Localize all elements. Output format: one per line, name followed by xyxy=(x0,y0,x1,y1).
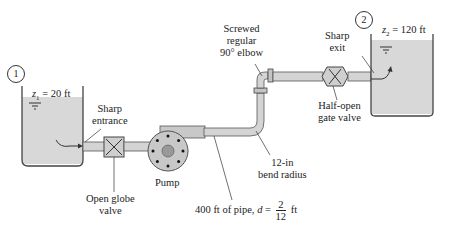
pipe-segment-exit xyxy=(348,72,371,81)
reservoir-1-water xyxy=(22,97,83,164)
label-line: Screwed xyxy=(220,23,263,35)
elevation-label-2: z2 = 120 ft xyxy=(382,24,426,40)
label-line: gate valve xyxy=(318,112,361,124)
label-line: 12-in xyxy=(258,157,307,169)
numerator: 2 xyxy=(276,199,287,211)
label-screwed-elbow: Screwed regular 90° elbow xyxy=(220,23,263,59)
label-line: entrance xyxy=(92,115,128,127)
piping-system-diagram: 1 2 z1 = 20 ft z2 = 120 ft Sharp entranc… xyxy=(0,0,453,231)
station-marker-1: 1 xyxy=(7,65,25,83)
elevation-value: = 20 ft xyxy=(40,88,71,99)
label-line: 90° elbow xyxy=(220,47,263,59)
label-open-globe-valve: Open globe valve xyxy=(86,193,135,217)
label-sharp-exit: Sharp exit xyxy=(325,30,350,54)
pipe-segment-entrance xyxy=(83,142,105,151)
pump xyxy=(148,126,205,171)
label-half-open-gate-valve: Half-open gate valve xyxy=(318,100,361,124)
open-globe-valve xyxy=(104,137,124,157)
label-line: regular xyxy=(220,35,263,47)
unit: ft xyxy=(288,204,297,215)
pipe-segment-upper xyxy=(273,72,323,81)
label-line: Half-open xyxy=(318,100,361,112)
label-sharp-entrance: Sharp entrance xyxy=(92,103,128,127)
equals: = xyxy=(262,204,273,215)
label-pipe-spec: 400 ft of pipe, d = 212 ft xyxy=(195,199,297,222)
label-line: exit xyxy=(325,42,350,54)
half-open-gate-valve xyxy=(322,67,348,86)
station-marker-2: 2 xyxy=(355,11,373,29)
elevation-value: = 120 ft xyxy=(390,24,426,35)
denominator: 12 xyxy=(276,211,287,222)
pipe-diameter-fraction: 212 xyxy=(276,199,287,222)
reservoir-2 xyxy=(371,34,433,116)
label-line: Sharp xyxy=(325,30,350,42)
elevation-label-1: z1 = 20 ft xyxy=(32,88,70,104)
label-line: bend radius xyxy=(258,169,307,181)
label-pump: Pump xyxy=(155,177,180,189)
label-line: valve xyxy=(86,205,135,217)
reservoir-2-water xyxy=(371,40,433,114)
label-bend-radius: 12-in bend radius xyxy=(258,157,307,181)
label-line: Sharp xyxy=(92,103,128,115)
label-line: Open globe xyxy=(86,193,135,205)
pipe-length: 400 ft of pipe, xyxy=(195,204,257,215)
pipe-with-bend xyxy=(204,93,264,136)
screwed-elbow xyxy=(254,69,273,93)
pump-impeller-icon xyxy=(162,145,174,157)
